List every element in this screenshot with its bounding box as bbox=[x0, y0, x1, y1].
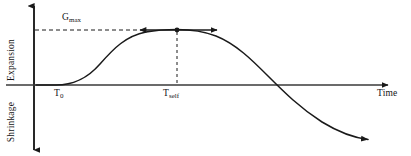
gmax-subscript: max bbox=[69, 16, 81, 24]
gmax-label: Gmax bbox=[62, 12, 81, 24]
y-axis-lower-label: Shrinkage bbox=[5, 98, 17, 146]
peak-point-marker bbox=[175, 28, 180, 33]
tself-label: Tself bbox=[163, 88, 179, 100]
t0-label: T0 bbox=[54, 88, 64, 100]
gmax-base: G bbox=[62, 12, 69, 22]
x-axis-label-time: Time bbox=[377, 88, 398, 98]
expansion-shrinkage-diagram: Expansion Shrinkage Time T0 Tself Gmax bbox=[0, 0, 411, 156]
t0-subscript: 0 bbox=[60, 92, 64, 100]
tself-subscript: self bbox=[169, 92, 179, 100]
y-axis-upper-label: Expansion bbox=[5, 36, 17, 84]
